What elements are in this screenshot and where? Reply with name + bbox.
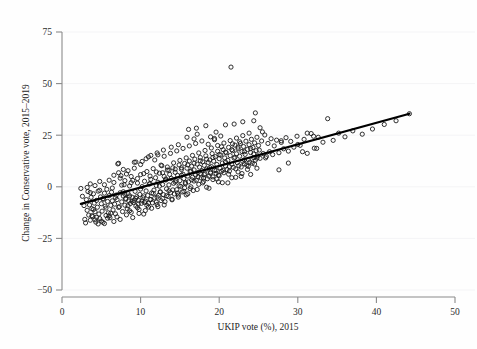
x-tick-label: 20 bbox=[214, 307, 224, 317]
y-axis-title: Change in Conservative vote, 2015–2019 bbox=[21, 84, 31, 242]
y-tick-label: 25 bbox=[43, 131, 53, 141]
x-tick-label: 40 bbox=[372, 307, 382, 317]
y-tick-label: 75 bbox=[43, 27, 53, 37]
y-tick-label: −50 bbox=[37, 285, 52, 295]
y-tick-label: 50 bbox=[43, 79, 53, 89]
x-tick-label: 0 bbox=[60, 307, 65, 317]
chart-figure: −50−250255075 01020304050 UKIP vote (%),… bbox=[0, 0, 477, 349]
scatter-plot-svg: −50−250255075 01020304050 UKIP vote (%),… bbox=[0, 0, 477, 349]
x-tick-label: 50 bbox=[450, 307, 460, 317]
x-tick-label: 30 bbox=[293, 307, 303, 317]
y-tick-label: 0 bbox=[47, 182, 52, 192]
x-axis-title: UKIP vote (%), 2015 bbox=[218, 322, 299, 333]
x-tick-label: 10 bbox=[136, 307, 146, 317]
y-tick-label: −25 bbox=[37, 234, 52, 244]
